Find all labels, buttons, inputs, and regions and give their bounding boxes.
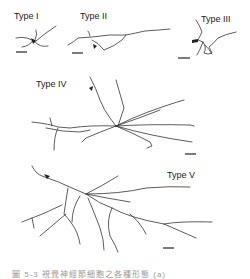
neuron-type-2 [68,29,170,53]
panel-label-type-2: Type II [80,12,107,21]
panel-label-type-5: Type V [167,171,195,180]
panel-label-type-3: Type III [201,15,231,24]
panel-label-type-4: Type IV [36,80,67,89]
neuron-type-1 [16,26,56,52]
panel-label-type-1: Type I [14,12,39,21]
figure-caption: 圖 5-3 視覺神經節細胞之各種形態 (a) [12,268,166,279]
neuron-type-3 [178,20,236,58]
